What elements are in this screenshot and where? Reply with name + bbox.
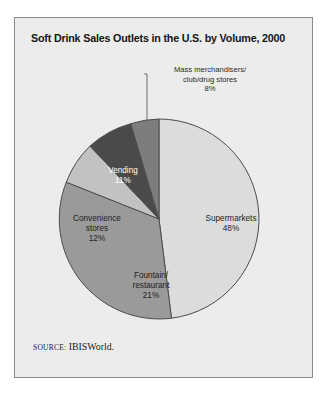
source-value: IBISWorld. <box>69 341 114 352</box>
slice-label-text-2: stores <box>49 224 145 234</box>
slice-label-text: Supermarkets <box>183 214 279 224</box>
callout-line-2: club/drug stores <box>155 75 265 85</box>
callout-line-1: Mass merchandisers/ <box>155 65 265 75</box>
slice-label-value: 21% <box>103 291 199 301</box>
slice-label-text-1: Fountain/ <box>103 271 199 281</box>
slice-label-fountain-restaurant: Fountain/ restaurant 21% <box>103 271 199 301</box>
slice-label-text-2: restaurant <box>103 281 199 291</box>
callout-value: 8% <box>155 84 265 94</box>
chart-frame: Soft Drink Sales Outlets in the U.S. by … <box>14 17 313 378</box>
slice-label-value: 11% <box>81 176 165 186</box>
slice-label-vending: Vending 11% <box>81 166 165 186</box>
slice-label-text-1: Convenience <box>49 214 145 224</box>
slice-label-text: Vending <box>81 166 165 176</box>
slice-label-convenience-stores: Convenience stores 12% <box>49 214 145 244</box>
slice-label-supermarkets: Supermarkets 48% <box>183 214 279 234</box>
source-note: SOURCE: IBISWorld. <box>33 341 114 352</box>
callout-label-mass-merchandisers: Mass merchandisers/ club/drug stores 8% <box>155 65 265 94</box>
slice-label-value: 12% <box>49 234 145 244</box>
slice-label-value: 48% <box>183 224 279 234</box>
source-label: SOURCE: <box>33 343 66 352</box>
